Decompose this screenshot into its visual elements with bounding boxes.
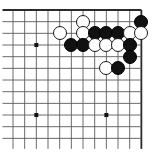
go-board-diagram (0, 0, 159, 159)
star-point (104, 113, 108, 117)
white-stone (53, 26, 67, 40)
star-point (34, 43, 38, 47)
star-point (34, 113, 38, 117)
black-stone (123, 50, 137, 64)
